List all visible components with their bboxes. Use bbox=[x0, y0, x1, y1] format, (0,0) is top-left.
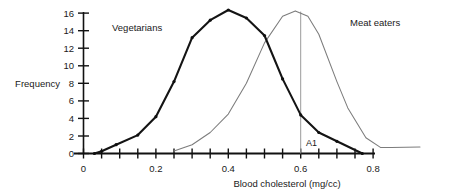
chart-canvas: 0 2 4 6 8 10 12 14 16 0 0.2 0.4 0.6 0.8 bbox=[0, 0, 457, 193]
y-tick-2: 2 bbox=[69, 131, 74, 142]
y-tick-14: 14 bbox=[63, 25, 74, 36]
x-tick-02: 0.2 bbox=[149, 163, 162, 174]
x-tick-04: 0.4 bbox=[222, 163, 235, 174]
series-label-meat-eaters: Meat eaters bbox=[350, 17, 400, 28]
series-label-vegetarians: Vegetarians bbox=[112, 22, 162, 33]
x-axis-title: Blood cholesterol (mg/cc) bbox=[233, 178, 340, 189]
axes-group bbox=[74, 12, 375, 154]
y-axis-tick-labels: 0 2 4 6 8 10 12 14 16 bbox=[63, 8, 74, 159]
x-axis-tick-labels: 0 0.2 0.4 0.6 0.8 bbox=[81, 163, 380, 174]
y-tick-8: 8 bbox=[69, 78, 74, 89]
y-tick-12: 12 bbox=[63, 43, 74, 54]
y-axis-title: Frequency bbox=[15, 78, 60, 89]
annotation-a1: A1 bbox=[306, 138, 317, 148]
x-tick-0: 0 bbox=[81, 163, 86, 174]
y-tick-16: 16 bbox=[63, 8, 74, 19]
y-tick-4: 4 bbox=[69, 113, 74, 124]
y-tick-10: 10 bbox=[63, 60, 74, 71]
y-tick-0: 0 bbox=[69, 148, 74, 159]
x-tick-08: 0.8 bbox=[366, 163, 379, 174]
cholesterol-distribution-chart: 0 2 4 6 8 10 12 14 16 0 0.2 0.4 0.6 0.8 bbox=[0, 0, 457, 193]
y-tick-6: 6 bbox=[69, 95, 74, 106]
x-tick-06: 0.6 bbox=[294, 163, 307, 174]
meat-eaters-curve bbox=[174, 11, 420, 151]
